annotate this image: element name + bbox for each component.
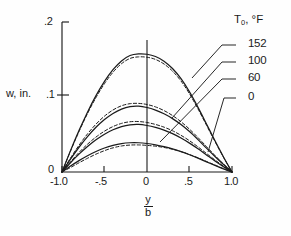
legend-header-symbol: T (234, 13, 241, 25)
x-axis-label-denominator: b (138, 207, 158, 218)
figure-chart-deflection: w, in. .2 .1 0 -1.0 -.5 0 .5 1.0 y b T0,… (0, 0, 291, 236)
x-axis-label-numerator: y (138, 194, 158, 205)
x-tick-label-zero: 0 (143, 176, 149, 187)
y-tick-label-0: 0 (48, 164, 54, 175)
y-axis-label: w, in. (6, 88, 31, 99)
leader-line-0 (208, 98, 236, 152)
legend-item-100[interactable]: 100 (248, 55, 266, 67)
y-tick-label-0.2: .2 (44, 16, 52, 27)
legend-leader-lines (160, 45, 236, 152)
legend-header-units: , °F (245, 13, 263, 25)
leader-line-100 (172, 62, 236, 118)
x-axis-label: y b (138, 194, 158, 218)
legend-item-0[interactable]: 0 (248, 91, 254, 103)
legend-item-60[interactable]: 60 (248, 72, 260, 84)
y-tick-label-0.1: .1 (46, 89, 54, 100)
leader-line-152 (192, 45, 236, 78)
x-tick-label-one: 1.0 (224, 176, 238, 187)
legend-item-152[interactable]: 152 (248, 38, 266, 50)
x-tick-label-half: .5 (184, 176, 192, 187)
x-tick-label-neghalf: -.5 (95, 176, 107, 187)
legend-header: T0, °F (234, 14, 263, 27)
x-tick-label-neg1: -1.0 (50, 176, 67, 187)
